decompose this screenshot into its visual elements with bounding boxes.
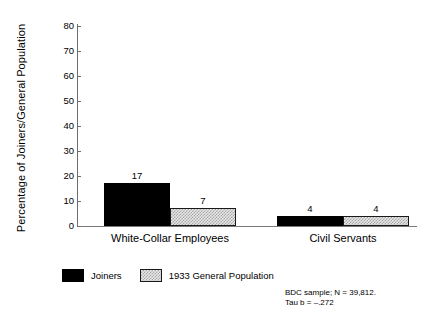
y-tick-30: 30 <box>43 151 81 152</box>
bar-civil-servants-joiners[interactable]: 4 <box>277 216 343 226</box>
bar-white-collar-general-population[interactable]: 7 <box>170 208 236 226</box>
footnote: BDC sample; N = 39,812. Tau b = –.272 <box>285 288 376 308</box>
bar-chart-figure: Percentage of Joiners/General Population… <box>0 0 434 321</box>
legend-item-label: Joiners <box>91 270 122 281</box>
bar-value-label: 4 <box>307 203 312 214</box>
legend: Joiners 1933 General Population <box>62 269 274 282</box>
y-tick-mark <box>77 51 81 52</box>
y-tick-label: 50 <box>63 95 74 106</box>
legend-item-joiners[interactable]: Joiners <box>62 269 122 282</box>
y-tick-50: 50 <box>43 101 81 102</box>
legend-swatch-icon <box>62 269 84 282</box>
y-axis-title: Percentage of Joiners/General Population <box>10 12 32 244</box>
y-tick-mark <box>77 201 81 202</box>
y-tick-label: 20 <box>63 170 74 181</box>
y-tick-label: 0 <box>69 220 74 231</box>
legend-item-label: 1933 General Population <box>169 270 274 281</box>
y-tick-80: 80 <box>43 26 81 27</box>
y-tick-60: 60 <box>43 76 81 77</box>
y-tick-mark <box>77 76 81 77</box>
footnote-line-tau: Tau b = –.272 <box>285 298 376 308</box>
footnote-line-sample: BDC sample; N = 39,812. <box>285 288 376 298</box>
bar-white-collar-joiners[interactable]: 17 <box>104 183 170 226</box>
y-tick-mark <box>77 151 81 152</box>
y-tick-mark <box>77 176 81 177</box>
y-tick-40: 40 <box>43 126 81 127</box>
plot-area: 80 70 60 50 40 30 20 10 <box>77 24 417 227</box>
y-tick-label: 30 <box>63 145 74 156</box>
y-tick-label: 40 <box>63 120 74 131</box>
x-category-label-white-collar-employees: White-Collar Employees <box>111 232 229 245</box>
y-tick-mark <box>77 101 81 102</box>
y-tick-20: 20 <box>43 176 81 177</box>
legend-swatch-icon <box>140 269 162 282</box>
y-tick-mark <box>77 126 81 127</box>
bar-value-label: 17 <box>132 170 143 181</box>
y-tick-label: 80 <box>63 20 74 31</box>
bar-civil-servants-general-population[interactable]: 4 <box>343 216 409 226</box>
y-tick-label: 60 <box>63 70 74 81</box>
bar-value-label: 7 <box>200 195 205 206</box>
y-tick-mark <box>77 226 81 227</box>
bar-value-label: 4 <box>373 203 378 214</box>
y-tick-mark <box>77 26 81 27</box>
y-tick-70: 70 <box>43 51 81 52</box>
y-tick-10: 10 <box>43 201 81 202</box>
y-tick-label: 10 <box>63 195 74 206</box>
y-tick-0: 0 <box>43 226 81 227</box>
y-tick-label: 70 <box>63 45 74 56</box>
legend-item-general-population[interactable]: 1933 General Population <box>140 269 274 282</box>
x-axis-line <box>77 226 417 227</box>
x-category-label-civil-servants: Civil Servants <box>309 232 376 245</box>
